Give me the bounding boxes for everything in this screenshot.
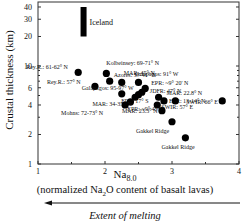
melting-arrow-label: Extent of melting [0,210,250,221]
data-point-label: Galapagos: 91° W [135,71,179,77]
data-point-label: Gakkel Ridge [136,128,169,134]
data-point [118,90,125,97]
data-point [75,69,82,76]
data-point-label: MAR: 22.8° N [167,90,203,96]
data-point-label: Rey.R.: 57° N [47,79,81,85]
data-point-label: Rey.R.: 61-62° N [26,64,68,70]
data-point-label: MAR: 23.3° N [122,108,158,114]
x-axis-subscript: 8.0 [126,174,136,183]
data-point-label: Kolbeinsey: 69-71° N [106,60,159,66]
x-axis-symbol: Na [114,168,127,180]
data-point [135,79,142,86]
data-point [219,97,226,104]
data-point [182,134,189,141]
data-point [158,107,165,114]
data-point-label: Mohns: 72-73° N [61,110,104,116]
y-tick-label: 40 [24,3,32,12]
data-point-label: EPR: ~9° 20' N [151,80,189,86]
iceland-bar [81,7,87,37]
y-tick-label: 2 [28,130,32,139]
y-tick-label: 20 [24,32,32,41]
x-axis-title: Na8.0 [0,168,250,183]
y-tick-label: 30 [24,15,32,24]
data-point-label: Galapagos: 95-97° W [82,85,134,91]
data-point [168,118,175,125]
data-point [103,70,110,77]
data-point-label: SWIR: 66° E [186,99,218,105]
x-axis-description: (normalized Na2O content of basalt lavas… [0,184,250,198]
iceland-label: Iceland [90,18,114,27]
melting-arrow-head-icon [44,201,52,206]
data-point [106,78,113,85]
data-point [135,91,142,98]
data-point-label: Gakkel Ridge [161,144,194,150]
y-tick-label: 4 [28,101,32,110]
y-axis-label: Crustal thickness (km) [3,25,15,135]
y-tick-label: 6 [28,84,32,93]
